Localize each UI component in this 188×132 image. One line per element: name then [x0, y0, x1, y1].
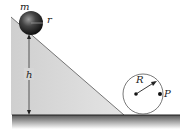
mass-label: m	[20, 1, 29, 12]
height-label: h	[26, 69, 32, 80]
point-p-label: P	[163, 88, 171, 99]
ground-shadow	[12, 115, 180, 129]
wheel-radius-label: R	[135, 74, 144, 85]
ball-radius-label: r	[47, 14, 53, 25]
point-p-dot	[158, 92, 162, 96]
mechanics-diagram: h m r R P	[0, 0, 188, 132]
